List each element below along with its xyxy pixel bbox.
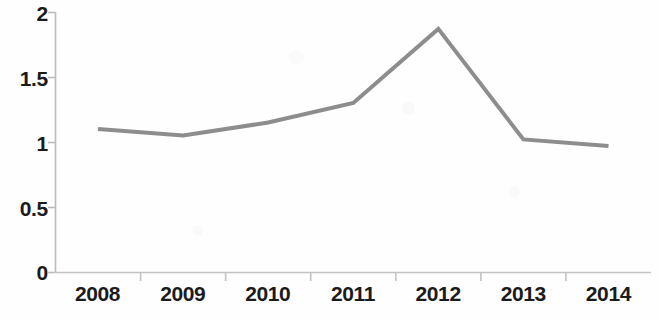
x-axis-ticks [141,273,566,282]
x-tick-label-2014: 2014 [566,283,651,317]
x-tick-label-2012: 2012 [396,283,481,317]
data-series-line [98,29,609,146]
x-tick-label-2009: 2009 [140,283,225,317]
x-tick-label-2010: 2010 [225,283,310,317]
x-tick-label-2013: 2013 [481,283,566,317]
y-axis-ticks [48,13,56,273]
plot-area [0,0,659,320]
x-axis-tick-labels: 2008 2009 2010 2011 2012 2013 2014 [55,283,651,317]
x-tick-label-2008: 2008 [55,283,140,317]
x-tick-label-2011: 2011 [310,283,395,317]
line-chart: 2 1.5 1 0.5 0 2008 2009 2010 2011 2012 2… [0,0,659,320]
